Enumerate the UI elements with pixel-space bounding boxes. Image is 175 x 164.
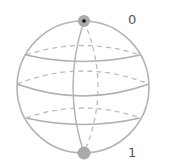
state-label-zero: 0	[128, 13, 136, 26]
sphere-outline	[17, 21, 149, 153]
upper-latitude-back	[26, 46, 140, 56]
state-label-one: 1	[128, 146, 136, 159]
meridian-back	[84, 21, 98, 153]
upper-latitude-front	[26, 55, 140, 62]
lower-latitude-front	[26, 118, 140, 125]
equator-front	[17, 84, 149, 96]
bloch-sphere-diagram: 0 1	[0, 0, 175, 164]
bloch-sphere-svg	[0, 0, 175, 164]
south-pole-point	[78, 147, 91, 160]
north-pole-center-dot	[82, 19, 86, 23]
meridian-front	[73, 21, 84, 153]
equator-back	[17, 71, 149, 84]
lower-latitude-back	[26, 108, 140, 118]
